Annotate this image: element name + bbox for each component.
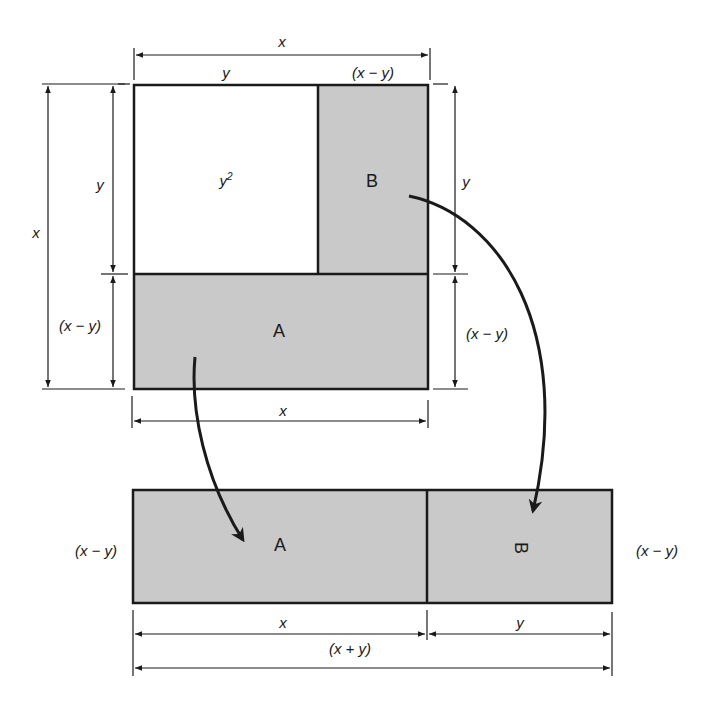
label-bottom-y: y [516, 614, 524, 631]
right-dimension [433, 86, 468, 389]
label-bottom-right-height: (x − y) [636, 542, 678, 559]
label-left-y: y [96, 176, 104, 193]
label-y-squared: y2 [219, 171, 232, 189]
top-dimension [118, 48, 448, 84]
label-region-b-top: B [366, 171, 378, 192]
label-left-x-minus-y: (x − y) [59, 317, 101, 334]
label-bottom-x: x [279, 614, 287, 631]
label-right-y: y [462, 173, 470, 190]
label-bottom-left-height: (x − y) [75, 542, 117, 559]
label-region-b-bottom-rotated: B [510, 542, 531, 554]
bottom-dimensions [133, 610, 612, 676]
label-left-x: x [32, 224, 40, 241]
label-top-y: y [222, 64, 230, 81]
left-dimension [42, 84, 128, 389]
label-top-x: x [278, 33, 286, 50]
label-region-a-bottom: A [274, 535, 286, 556]
label-region-a-top: A [273, 321, 285, 342]
top-square [134, 85, 428, 389]
label-right-x-minus-y: (x − y) [466, 325, 508, 342]
move-arrow-b [409, 196, 545, 511]
label-top-x-minus-y: (x − y) [352, 64, 394, 81]
label-below-x: x [279, 402, 287, 419]
label-bottom-x-plus-y: (x + y) [329, 640, 371, 657]
bottom-rect [133, 490, 612, 603]
diagram-canvas [0, 0, 721, 707]
